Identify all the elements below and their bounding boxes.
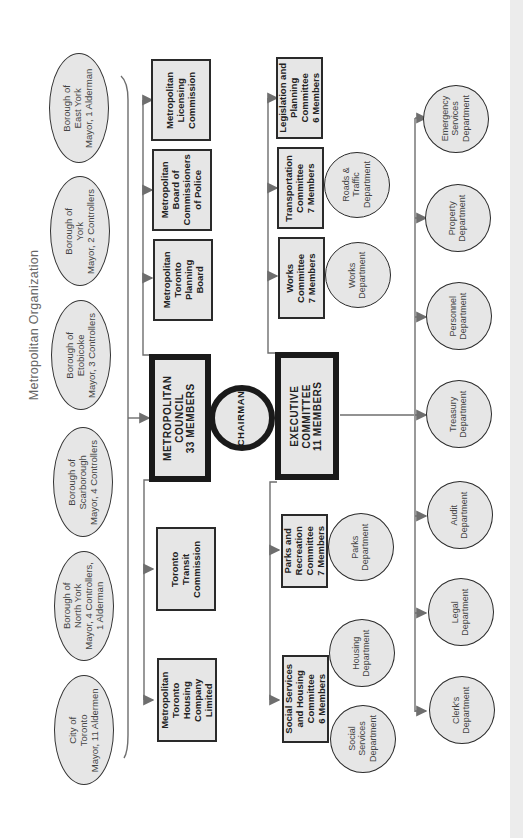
dept-label: Works Department bbox=[348, 251, 369, 298]
city-of-toronto: City of Toronto Mayor, 11 Aldermen bbox=[54, 675, 114, 785]
borough-label: Borough of York Mayor, 2 Controllers bbox=[64, 188, 97, 273]
council-label: METROPOLITAN COUNCIL 33 MEMBERS bbox=[163, 375, 198, 460]
borough-york: Borough of York Mayor, 2 Controllers bbox=[50, 176, 110, 286]
metropolitan-council: METROPOLITAN COUNCIL 33 MEMBERS bbox=[149, 354, 211, 482]
committee-label: Transportation Committee 7 Members bbox=[284, 155, 317, 222]
dept-label: Legal Department bbox=[451, 588, 472, 635]
borough-scarborough: Borough of Scarborough Mayor, 4 Controll… bbox=[53, 427, 113, 537]
agency-transit-commission: Toronto Transit Commission bbox=[156, 527, 216, 611]
committee-transportation: Transportation Committee 7 Members bbox=[277, 147, 324, 229]
dept-label: Audit Department bbox=[450, 491, 471, 538]
borough-etobicoke: Borough of Etobicoke Mayor, 3 Controller… bbox=[51, 300, 111, 410]
dept-label: Housing Department bbox=[352, 629, 373, 676]
dept-social-services: Social Services Department bbox=[330, 705, 396, 773]
committee-label: Works Committee 7 Members bbox=[285, 253, 318, 303]
agency-planning-board: Metropolitan Toronto Planning Board bbox=[153, 239, 213, 321]
dept-label: Parks Department bbox=[351, 523, 372, 570]
agency-police-board: Metropolitan Board of Commissioners of P… bbox=[152, 149, 212, 231]
committee-label: Legislation and Planning Committee 6 Mem… bbox=[278, 63, 322, 133]
committee-label: Social Services and Housing Committee 6 … bbox=[284, 664, 328, 734]
committee-parks-recreation: Parks and Recreation Committee 7 Members bbox=[281, 514, 328, 588]
borough-label: Borough of Etobicoke Mayor, 3 Controller… bbox=[65, 312, 98, 397]
agency-label: Metropolitan Toronto Housing Company Lim… bbox=[160, 671, 215, 728]
dept-roads-traffic: Roads & Traffic Department bbox=[324, 152, 390, 218]
dept-label: Personnel Department bbox=[449, 292, 470, 339]
chairman: CHAIRMAN bbox=[209, 385, 275, 451]
borough-east-york: Borough of East York Mayor, 1 Alderman bbox=[49, 53, 109, 163]
borough-label: Borough of Scarborough Mayor, 4 Controll… bbox=[67, 439, 100, 524]
dept-label: Social Services Department bbox=[347, 715, 378, 762]
dept-works: Works Department bbox=[325, 242, 391, 308]
agency-label: Metropolitan Toronto Planning Board bbox=[161, 252, 205, 309]
dept-property: Property Department bbox=[425, 184, 491, 252]
dept-audit: Audit Department bbox=[427, 481, 493, 549]
borough-label: Borough of East York Mayor, 1 Alderman bbox=[63, 68, 96, 147]
committee-social-services-housing: Social Services and Housing Committee 6 … bbox=[282, 655, 329, 743]
committee-works: Works Committee 7 Members bbox=[278, 237, 325, 319]
dept-emergency-services: Emergency Services Department bbox=[423, 85, 489, 153]
committee-legislation-planning: Legislation and Planning Committee 6 Mem… bbox=[276, 57, 323, 139]
executive-committee: EXECUTIVE COMMITTEE 11 MEMBERS bbox=[275, 352, 339, 480]
dept-treasury: Treasury Department bbox=[426, 380, 492, 448]
dept-personnel: Personnel Department bbox=[426, 282, 492, 350]
agency-housing-company: Metropolitan Toronto Housing Company Lim… bbox=[157, 658, 217, 742]
dept-housing: Housing Department bbox=[329, 619, 395, 687]
dept-label: Clerk's Department bbox=[452, 686, 473, 733]
dept-legal: Legal Department bbox=[428, 578, 494, 646]
committee-label: Parks and Recreation Committee 7 Members bbox=[283, 526, 327, 576]
dept-clerks: Clerk's Department bbox=[429, 676, 495, 744]
agency-label: Metropolitan Licensing Commission bbox=[165, 71, 198, 128]
agency-licensing-commission: Metropolitan Licensing Commission bbox=[151, 59, 211, 141]
borough-label: City of Toronto Mayor, 11 Aldermen bbox=[68, 688, 101, 772]
chairman-label: CHAIRMAN bbox=[237, 390, 248, 446]
dept-label: Treasury Department bbox=[449, 390, 470, 437]
borough-north-york: Borough of North York Mayor, 4 Controlle… bbox=[54, 551, 114, 661]
dept-label: Roads & Traffic Department bbox=[341, 161, 372, 208]
agency-label: Metropolitan Board of Commissioners of P… bbox=[160, 154, 204, 225]
borough-label: Borough of North York Mayor, 4 Controlle… bbox=[62, 562, 106, 650]
dept-label: Emergency Services Department bbox=[440, 95, 471, 142]
agency-label: Toronto Transit Commission bbox=[170, 540, 203, 597]
dept-label: Property Department bbox=[448, 194, 469, 241]
dept-parks: Parks Department bbox=[328, 513, 394, 581]
executive-label: EXECUTIVE COMMITTEE 11 MEMBERS bbox=[290, 381, 325, 450]
